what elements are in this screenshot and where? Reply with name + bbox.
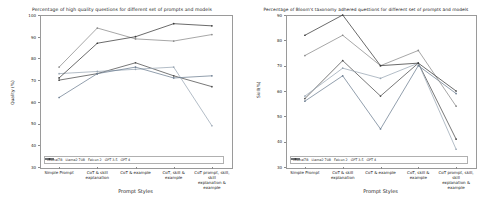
- legend-label: GPT 3.5: [351, 158, 364, 162]
- legend-item[interactable]: Llama2 70B: [65, 158, 85, 162]
- legend-item[interactable]: GPT 3.5: [351, 158, 364, 162]
- x-tick-label: CoT prompt, skill, skillexplanation & ex…: [190, 170, 234, 190]
- line-series-quality: [0, 0, 244, 198]
- legend-item[interactable]: Falcon 2: [88, 158, 102, 162]
- chart-panel-skill: Percentage of Bloom's taxonomy adhered q…: [244, 0, 488, 198]
- legend-label: Llama2 70B: [311, 158, 331, 162]
- legend-item[interactable]: GPT 4: [121, 158, 131, 162]
- figure-container: Percentage of high quality questions for…: [0, 0, 488, 198]
- legend-quality[interactable]: Mistral7BLlama2 70BFalcon 2GPT 3.5GPT 4: [44, 156, 224, 164]
- x-tick-label: CoT prompt, skill, skillexplanation & ex…: [434, 170, 478, 190]
- legend-item[interactable]: GPT 3.5: [105, 158, 118, 162]
- chart-panel-quality: Percentage of high quality questions for…: [0, 0, 244, 198]
- x-axis-label-skill: Prompt Styles: [286, 188, 475, 194]
- legend-label: GPT 4: [367, 158, 377, 162]
- legend-marker-icon: [291, 157, 300, 161]
- legend-label: GPT 4: [121, 158, 131, 162]
- legend-item[interactable]: Llama2 70B: [311, 158, 331, 162]
- legend-skill[interactable]: Mistral7BLlama2 70BFalcon 2GPT 3.5GPT 4: [290, 156, 468, 164]
- legend-label: Llama2 70B: [65, 158, 85, 162]
- legend-marker-icon: [45, 157, 54, 161]
- legend-item[interactable]: Falcon 2: [334, 158, 348, 162]
- legend-label: GPT 3.5: [105, 158, 118, 162]
- legend-item[interactable]: GPT 4: [367, 158, 377, 162]
- legend-label: Falcon 2: [334, 158, 348, 162]
- legend-label: Falcon 2: [88, 158, 102, 162]
- x-axis-label-quality: Prompt Styles: [40, 188, 231, 194]
